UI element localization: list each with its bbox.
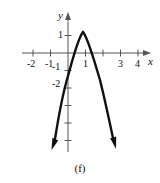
figure-panel: -2 -1 1 3 4 1 -1 -2 y x (f) xyxy=(0,0,160,183)
x-axis xyxy=(22,50,151,57)
y-tick-label-1: 1 xyxy=(58,30,63,40)
x-tick-label-neg2: -2 xyxy=(27,59,35,69)
y-axis-label: y xyxy=(58,10,63,21)
y-tick-label-neg2: -2 xyxy=(52,79,60,89)
x-tick-label-3: 3 xyxy=(118,59,123,69)
x-axis-label: x xyxy=(148,56,153,67)
parabola-plot xyxy=(0,0,160,183)
y-tick-label-neg1: -1 xyxy=(52,62,60,72)
x-tick-label-1: 1 xyxy=(83,59,88,69)
x-tick-label-4: 4 xyxy=(135,59,140,69)
figure-caption: (f) xyxy=(0,162,160,174)
parabola-curve xyxy=(52,32,117,150)
